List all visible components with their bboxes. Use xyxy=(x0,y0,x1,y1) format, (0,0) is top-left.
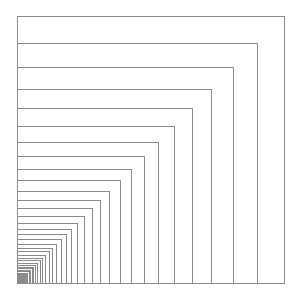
nested-square xyxy=(17,282,19,284)
nested-squares-diagram xyxy=(0,0,298,302)
